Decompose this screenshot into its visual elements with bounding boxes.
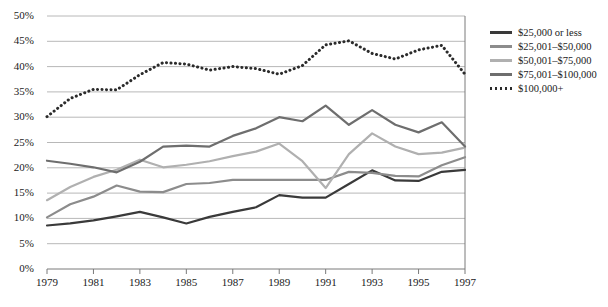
x-axis-tick-label: 1983 xyxy=(120,276,160,288)
chart-legend: $25,000 or less$25,001–$50,000$50,001–$7… xyxy=(490,26,608,96)
line-chart: 0%5%10%15%20%25%30%35%40%45%50% 19791981… xyxy=(0,0,608,307)
y-axis-tick-label: 10% xyxy=(0,211,34,223)
y-axis-tick-label: 50% xyxy=(0,9,34,21)
legend-swatch-icon xyxy=(490,41,512,53)
x-axis-tick-label: 1989 xyxy=(259,276,299,288)
x-ticks xyxy=(47,269,465,274)
x-axis-tick-label: 1997 xyxy=(445,276,485,288)
legend-label: $50,001–$75,000 xyxy=(518,55,592,66)
data-series xyxy=(47,41,465,226)
y-axis-tick-label: 45% xyxy=(0,34,34,46)
x-axis-tick-label: 1995 xyxy=(399,276,439,288)
legend-label: $75,001–$100,000 xyxy=(518,69,597,80)
y-axis-tick-label: 15% xyxy=(0,186,34,198)
x-axis-tick-label: 1979 xyxy=(27,276,67,288)
legend-item: $25,000 or less xyxy=(490,26,608,39)
y-axis-tick-label: 40% xyxy=(0,60,34,72)
y-axis-tick-label: 35% xyxy=(0,85,34,97)
x-axis-tick-label: 1981 xyxy=(73,276,113,288)
legend-label: $100,000+ xyxy=(518,83,563,94)
legend-swatch-icon xyxy=(490,69,512,81)
y-axis-tick-label: 25% xyxy=(0,136,34,148)
y-axis-tick-label: 0% xyxy=(0,262,34,274)
legend-swatch-icon xyxy=(490,27,512,39)
x-axis-tick-label: 1991 xyxy=(306,276,346,288)
legend-item: $50,001–$75,000 xyxy=(490,54,608,67)
legend-item: $75,001–$100,000 xyxy=(490,68,608,81)
legend-swatch-icon xyxy=(490,55,512,67)
legend-label: $25,001–$50,000 xyxy=(518,41,592,52)
series-line-1 xyxy=(47,170,465,226)
y-axis-tick-label: 30% xyxy=(0,110,34,122)
y-axis-tick-label: 5% xyxy=(0,237,34,249)
series-line-3 xyxy=(47,133,465,200)
legend-item: $25,001–$50,000 xyxy=(490,40,608,53)
x-axis-tick-label: 1985 xyxy=(166,276,206,288)
gridlines xyxy=(47,16,465,269)
legend-swatch-icon xyxy=(490,83,512,95)
series-line-4 xyxy=(47,106,465,173)
series-line-5 xyxy=(47,41,465,117)
legend-label: $25,000 or less xyxy=(518,27,582,38)
y-axis-tick-label: 20% xyxy=(0,161,34,173)
legend-item: $100,000+ xyxy=(490,82,608,95)
x-axis-tick-label: 1987 xyxy=(213,276,253,288)
x-axis-tick-label: 1993 xyxy=(352,276,392,288)
